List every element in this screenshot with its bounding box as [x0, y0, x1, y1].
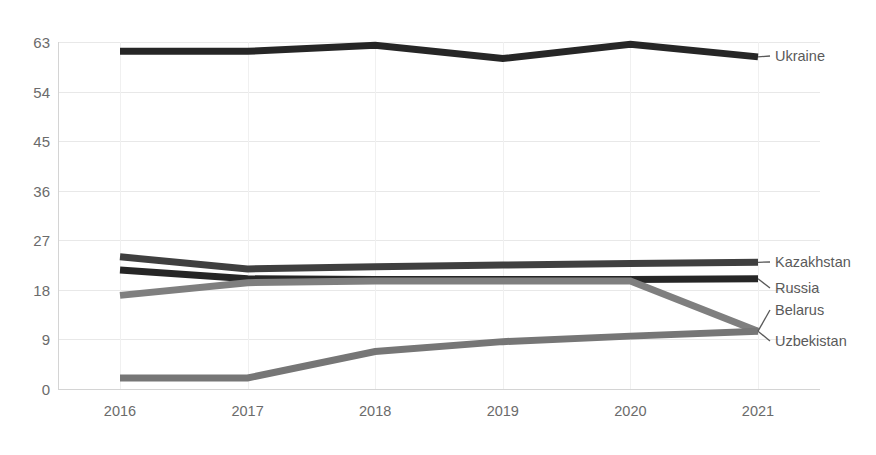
x-tick-label-2021: 2021 [718, 403, 798, 420]
series-line-kazakhstan [120, 257, 758, 269]
y-tick-label-54: 54 [4, 85, 50, 100]
y-tick-label-36: 36 [4, 184, 50, 199]
y-tick-label-63: 63 [4, 35, 50, 50]
x-tick-label-2019: 2019 [463, 403, 543, 420]
y-tick-label-27: 27 [4, 233, 50, 248]
chart-title [10, 0, 866, 5]
y-tick-label-45: 45 [4, 134, 50, 149]
gridline-y-0 [58, 389, 820, 390]
x-tick-label-2017: 2017 [208, 403, 288, 420]
y-tick-label-0: 0 [4, 382, 50, 397]
plot-area [58, 42, 820, 389]
series-line-ukraine [120, 44, 758, 58]
series-lines-svg [58, 42, 820, 389]
y-axis-tick-labels: 09182736455463 [0, 42, 50, 389]
y-tick-label-18: 18 [4, 283, 50, 298]
series-line-uzbekistan [120, 331, 758, 378]
y-tick-label-9: 9 [4, 332, 50, 347]
series-line-belarus [120, 281, 758, 331]
x-tick-label-2020: 2020 [590, 403, 670, 420]
x-tick-label-2016: 2016 [80, 403, 160, 420]
x-tick-label-2018: 2018 [335, 403, 415, 420]
x-axis-tick-labels: 201620172018201920202021 [58, 403, 820, 425]
line-chart: 09182736455463 201620172018201920202021 … [0, 0, 876, 455]
